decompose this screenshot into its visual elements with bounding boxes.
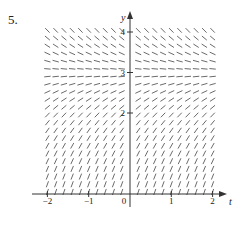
slope-segment: [137, 181, 139, 187]
slope-segment: [161, 135, 164, 140]
slope-segment: [96, 181, 98, 187]
slope-segment: [177, 105, 182, 109]
slope-segment: [54, 120, 58, 125]
slope-segment: [178, 174, 180, 180]
slope-segment: [55, 181, 57, 187]
slope-segment: [135, 69, 141, 70]
slope-segment: [211, 166, 214, 172]
slope-segment: [210, 98, 215, 102]
slope-segment: [136, 44, 141, 47]
slope-segment: [78, 105, 83, 109]
slope-segment: [176, 76, 182, 77]
slope-segment: [70, 105, 75, 109]
slope-segment: [110, 60, 116, 62]
slope-segment: [94, 98, 99, 102]
slope-segment: [203, 143, 206, 149]
slope-segment: [144, 28, 148, 33]
slope-segment: [201, 91, 207, 94]
slope-segment: [70, 128, 74, 133]
slope-segment: [95, 120, 99, 125]
slope-segment: [152, 83, 158, 85]
slope-segment: [211, 135, 214, 140]
slope-segment: [194, 36, 199, 40]
slope-segment: [136, 36, 141, 40]
slope-segment: [210, 105, 215, 109]
slope-segment: [63, 174, 65, 180]
slope-segment: [44, 83, 50, 85]
slope-segment: [160, 52, 166, 55]
slope-segment: [144, 44, 149, 47]
slope-segment: [193, 91, 199, 94]
slope-segment: [79, 151, 82, 157]
slope-segment: [120, 143, 123, 149]
slope-segment: [86, 91, 92, 94]
slope-segment: [210, 113, 214, 118]
slope-segment: [194, 120, 198, 125]
slope-segment: [61, 76, 67, 77]
slope-segment: [86, 69, 92, 70]
slope-segment: [54, 128, 58, 133]
slope-segment: [77, 69, 83, 70]
x-tick-label: −2: [43, 196, 53, 206]
slope-segment: [87, 143, 90, 149]
slope-segment: [202, 120, 206, 125]
slope-segment: [203, 158, 206, 164]
slope-segment: [79, 158, 82, 164]
slope-segment: [170, 151, 173, 157]
slope-segment: [45, 36, 50, 40]
slope-segment: [202, 28, 206, 33]
slope-segment: [176, 60, 182, 62]
slope-segment: [103, 105, 108, 109]
slope-segment: [144, 52, 150, 55]
slope-segment: [95, 128, 99, 133]
slope-segment: [119, 91, 125, 94]
slope-segment: [201, 83, 207, 85]
slope-segment: [104, 174, 106, 180]
slope-segment: [103, 28, 107, 33]
slope-segment: [71, 151, 74, 157]
slope-segment: [46, 135, 49, 140]
slope-segment: [170, 174, 172, 180]
slope-segment: [170, 135, 173, 140]
slope-segment: [170, 143, 173, 149]
slope-segment: [63, 181, 65, 187]
slope-segment: [96, 174, 98, 180]
slope-segment: [102, 69, 108, 70]
slope-segment: [195, 166, 198, 172]
slope-segment: [88, 174, 90, 180]
slope-segment: [112, 166, 115, 172]
slope-segment: [87, 166, 90, 172]
slope-segment: [202, 44, 207, 47]
slope-segment: [177, 28, 181, 33]
slope-segment: [94, 69, 100, 70]
slope-segment: [102, 76, 108, 77]
slope-segment: [178, 166, 181, 172]
slope-segment: [210, 60, 216, 62]
slope-segment: [94, 91, 100, 94]
slope-segment: [185, 36, 190, 40]
slope-segment: [168, 91, 174, 94]
slope-segment: [152, 105, 157, 109]
slope-segment: [177, 98, 182, 102]
slope-segment: [86, 44, 91, 47]
slope-segment: [78, 91, 84, 94]
slope-segment: [168, 60, 174, 62]
slope-segment: [160, 91, 166, 94]
slope-segment: [169, 120, 173, 125]
slope-segment: [110, 69, 116, 70]
slope-segment: [78, 113, 82, 118]
slope-segment: [94, 60, 100, 62]
slope-segment: [103, 44, 108, 47]
slope-segment: [194, 135, 197, 140]
slope-segment: [69, 44, 74, 47]
slope-segment: [111, 105, 116, 109]
slope-segment: [160, 60, 166, 62]
slope-segment: [186, 128, 190, 133]
slope-segment: [119, 44, 124, 47]
slope-segment: [95, 143, 98, 149]
x-tick-label: 1: [169, 196, 174, 206]
slope-segment: [202, 128, 206, 133]
slope-segment: [135, 76, 141, 77]
slope-segment: [62, 151, 65, 157]
slope-segment: [136, 105, 141, 109]
